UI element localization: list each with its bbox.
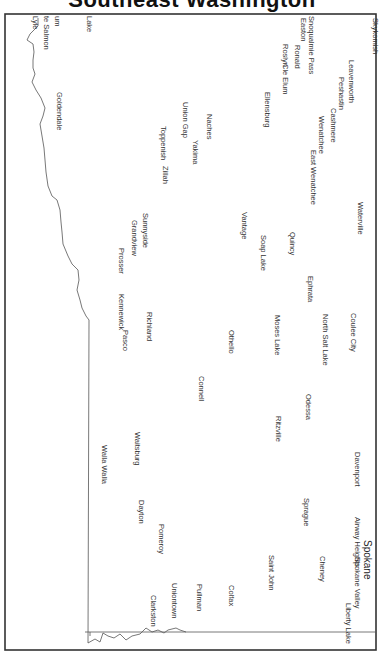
place-label: Saint John — [267, 555, 276, 590]
place-label: Cashmere — [329, 108, 338, 143]
place-label: Richland — [145, 312, 154, 341]
place-label: Walla Walla — [100, 445, 109, 484]
place-label: Sprague — [302, 498, 311, 526]
place-label: Quincy — [288, 232, 297, 255]
place-label: Colfax — [227, 585, 236, 606]
place-label: Pomeroy — [157, 524, 166, 554]
place-label: Odessa — [304, 394, 313, 420]
place-label: Liberty Lake — [344, 603, 353, 644]
place-label: Dayton — [137, 500, 146, 524]
place-label: Pullman — [195, 584, 204, 611]
place-label: Toppenish — [159, 126, 168, 160]
place-label: Connell — [197, 376, 206, 401]
place-label: Lyle — [31, 16, 40, 29]
place-label: North Salt Lake — [321, 314, 330, 366]
place-label: Zillah — [161, 166, 170, 184]
place-label: Prosser — [117, 248, 126, 274]
place-label: Othello — [227, 330, 236, 354]
place-label: Spokane Valley — [353, 557, 362, 609]
place-label: Clarkston — [149, 595, 158, 627]
place-label: Sunnyside — [141, 213, 150, 248]
place-label: Waterville — [356, 202, 365, 235]
place-label: Goldendale — [55, 92, 64, 130]
place-label: Grandview — [130, 220, 139, 256]
place-label: Snoqualmie Pass — [307, 16, 316, 74]
snake-river — [88, 628, 186, 643]
place-label: Vantage — [240, 212, 249, 239]
place-label: Peshastin — [337, 77, 346, 110]
place-label: Spokane — [362, 540, 373, 579]
place-label: Ellensburg — [263, 92, 272, 127]
place-label: Uniontown — [170, 583, 179, 618]
place-label: um — [53, 16, 62, 26]
place-label: Skykomish — [371, 18, 380, 54]
place-label: Leavenworth — [347, 60, 356, 103]
place-label: Davenport — [353, 452, 362, 487]
place-label: Yakima — [191, 140, 200, 164]
place-label: Cheney — [318, 556, 327, 582]
place-label: Ronald — [293, 45, 302, 69]
place-label: Cle Elum — [281, 64, 290, 94]
place-label: Union Gap — [181, 102, 190, 138]
place-label: Soap Lake — [259, 235, 268, 271]
place-label: Ephrata — [306, 276, 315, 302]
place-label: Easton — [299, 18, 308, 41]
place-label: Lake — [85, 16, 94, 32]
place-label: Waitsburg — [133, 432, 142, 465]
place-label: Kennewick — [117, 294, 126, 330]
oregon-border — [88, 320, 89, 643]
place-label: Ritzville — [274, 416, 283, 442]
place-label: Moses Lake — [273, 315, 282, 355]
place-label: East Wenatchee — [309, 150, 318, 205]
place-label: Coulee City — [349, 313, 358, 352]
place-label: te Salmon — [42, 16, 51, 50]
columbia-river — [27, 18, 89, 320]
place-label: Wenatchee — [317, 116, 326, 154]
place-label: Pasco — [121, 330, 130, 351]
place-label: Naches — [205, 114, 214, 139]
